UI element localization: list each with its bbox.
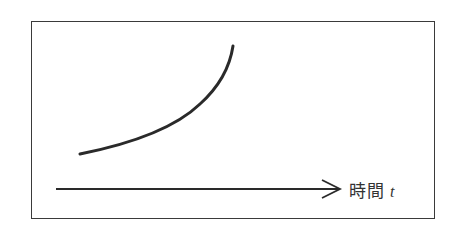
- time-axis-label-text: 時間: [349, 181, 385, 201]
- growth-curve: [80, 46, 233, 154]
- time-axis-label: 時間t: [349, 177, 395, 202]
- time-axis-variable: t: [390, 183, 395, 200]
